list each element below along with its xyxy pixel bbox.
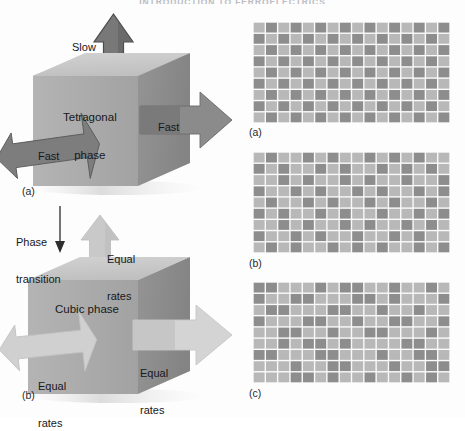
grid-tile [254,45,265,55]
grid-tile [377,198,388,208]
grid-tile [389,112,400,122]
grid-tile [254,68,265,78]
grid-tile [426,45,437,55]
grid-tile [315,305,326,315]
grid-tile [438,56,449,66]
grid-tile [365,153,376,163]
grid-tile [315,316,326,326]
grid-tile [352,56,363,66]
grid-tile [426,220,437,230]
grid-tile [438,372,449,382]
grid-tile [401,175,412,185]
grid-tile [401,164,412,174]
grid-tile [328,90,339,100]
grid-tile [401,79,412,89]
grid-tile [291,101,302,111]
grid-tile [414,328,425,338]
grid-tile [377,101,388,111]
grid-tile [365,90,376,100]
grid-tile [254,101,265,111]
grid-tile [389,294,400,304]
grid-tile [365,23,376,33]
grid-tile [426,231,437,241]
grid-tile [401,68,412,78]
grid-tile [303,112,314,122]
grid-tile [254,23,265,33]
grid-tile [426,175,437,185]
grid-tile [438,198,449,208]
grid-tile [352,361,363,371]
grid-tile [426,186,437,196]
grid-tile [315,90,326,100]
grid-tile [426,328,437,338]
grid-tile [438,79,449,89]
grid-tile [278,361,289,371]
grid-tile [352,242,363,252]
grid-tile [389,101,400,111]
grid-tile [352,34,363,44]
grid-tile [414,220,425,230]
grid-tile [278,350,289,360]
grid-tile [278,153,289,163]
grid-tile [328,186,339,196]
grid-tile [254,283,265,293]
grid-tile [377,305,388,315]
grid-tile [377,164,388,174]
grid-tile [414,112,425,122]
grid-tile [340,198,351,208]
grid-tile [426,153,437,163]
grid-tile [426,339,437,349]
grid-tile [438,283,449,293]
grid-tile [291,175,302,185]
grid-tile [401,186,412,196]
label-equal-rates-left-line2: rates [38,417,66,429]
grid-tile [426,112,437,122]
grid-tile [340,112,351,122]
grid-tile [303,242,314,252]
grid-tile [291,283,302,293]
grid-tile [365,175,376,185]
grid-tile [254,242,265,252]
grid-caption-c: (c) [249,387,261,399]
grid-tile [278,68,289,78]
grid-tile [315,350,326,360]
grid-tile [254,112,265,122]
grid-tile [315,339,326,349]
grid-tile [414,350,425,360]
grid-tile [401,294,412,304]
grid-tile [414,68,425,78]
grid-tile [340,316,351,326]
grid-tile [438,328,449,338]
grid-tile [254,350,265,360]
grid-tile [365,316,376,326]
grid-tile [291,79,302,89]
grid-tile [438,316,449,326]
grid-tile [389,164,400,174]
grid-tile [340,68,351,78]
grid-tile [328,242,339,252]
grid-tile [426,372,437,382]
grid-tile [389,23,400,33]
grid-tile [352,328,363,338]
grid-tile [328,198,339,208]
grid-tile [401,316,412,326]
grid-tile [377,231,388,241]
grid-tile [352,198,363,208]
grid-tile [438,242,449,252]
grid-tile [266,339,277,349]
grid-tile [389,90,400,100]
grid-tile [389,242,400,252]
grid-tile [328,220,339,230]
grid-tile [352,350,363,360]
grid-tile [266,112,277,122]
grid-tile [254,294,265,304]
grid-tile [352,101,363,111]
grid-tile [401,153,412,163]
grid-tile [278,305,289,315]
grid-tile [438,101,449,111]
grid-tile [340,101,351,111]
grid-tile [254,79,265,89]
grid-tile [365,112,376,122]
grid-tile [266,361,277,371]
grid-tile [303,101,314,111]
